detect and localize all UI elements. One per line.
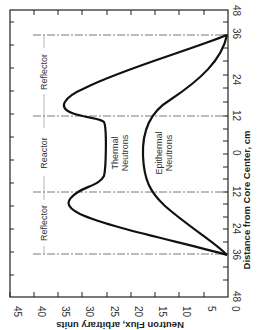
svg-text:10: 10 [181,306,192,318]
region-boundaries [33,35,228,254]
svg-text:40: 40 [36,306,47,318]
svg-text:20: 20 [133,306,144,318]
svg-text:35: 35 [60,306,71,318]
y-axis-title: Neutron Flux, arbitrary units [56,320,184,330]
region-label-reactor: Reactor [39,137,49,169]
thermal-label-line2: Neutrons [120,134,130,171]
x-axis-title-display: Distance from Core Center, cm [241,131,252,270]
svg-text:36: 36 [231,28,242,40]
epithermal-label-line2: Neutrons [164,134,174,171]
svg-text:48: 48 [231,5,242,17]
svg-text:30: 30 [84,306,95,318]
svg-text:25: 25 [109,306,120,318]
region-label-reflector-top: Reflector [39,54,49,90]
svg-text:24: 24 [231,74,242,86]
thermal-neutron-curve [64,35,227,255]
epithermal-label-line1: Epithermal [154,131,164,174]
svg-text:12: 12 [231,110,242,122]
svg-text:48: 48 [231,291,242,303]
svg-text:15: 15 [157,306,168,318]
flux-tick-labels: 45 40 35 30 25 20 15 10 5 0 [12,306,241,318]
svg-text:45: 45 [12,306,23,318]
svg-text:0: 0 [230,306,241,312]
svg-text:5: 5 [206,306,217,312]
neutron-flux-chart: 45 40 35 30 25 20 15 10 5 0 48 36 24 12 … [0,0,261,330]
region-label-reflector-bottom: Reflector [39,205,49,241]
thermal-label-line1: Thermal [110,136,120,169]
